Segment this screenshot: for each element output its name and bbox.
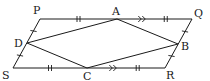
label-S: S	[2, 69, 10, 81]
parallelogram-pqrs	[13, 19, 192, 68]
quadrilateral-abcd	[27, 19, 178, 68]
diagram-svg: P Q R S A B C D	[0, 0, 210, 81]
label-P: P	[33, 4, 41, 17]
label-R: R	[166, 69, 175, 81]
outer-polygon	[13, 19, 192, 68]
geometry-diagram: P Q R S A B C D	[0, 0, 210, 81]
single-tick-mark	[17, 55, 23, 56]
label-C: C	[83, 70, 91, 81]
label-B: B	[181, 40, 189, 53]
label-D: D	[14, 37, 23, 50]
vertex-labels: P Q R S A B C D	[2, 4, 203, 81]
single-tick-mark	[30, 30, 36, 31]
inner-polygon	[27, 19, 178, 68]
segment-markings	[17, 16, 188, 71]
single-tick-mark	[168, 55, 174, 56]
label-A: A	[111, 5, 121, 18]
label-Q: Q	[194, 7, 203, 20]
single-tick-mark	[182, 31, 188, 32]
